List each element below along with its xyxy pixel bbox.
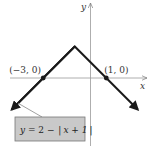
equation-label: y = 2 − |x + 1|: [19, 125, 93, 136]
y-axis-label: y: [80, 2, 87, 12]
annotation-pointer: [18, 103, 42, 117]
intercept-label: (−3, 0): [9, 65, 41, 75]
graph: x y (−3, 0)(1, 0) y = 2 − |x + 1|: [0, 0, 153, 147]
equation-box: y = 2 − |x + 1|: [15, 117, 93, 141]
intercept-point: [41, 76, 46, 81]
intercept-label: (1, 0): [104, 65, 128, 75]
x-axis-label: x: [140, 81, 145, 91]
intercept-point: [104, 76, 109, 81]
